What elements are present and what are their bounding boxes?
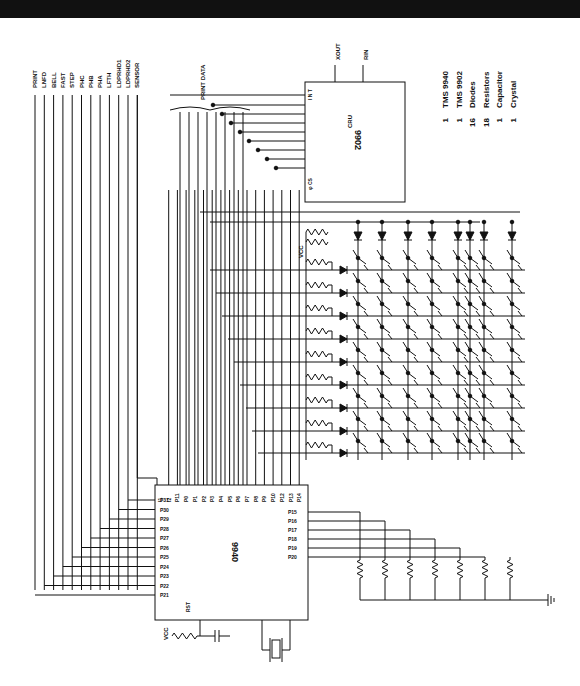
junction-dot [380,439,384,443]
pin-label: P18 [288,536,297,542]
junction-dot [430,394,434,398]
pin-label-p9: P9 [261,496,267,502]
key-switch [388,448,392,453]
part-qty: 1 [509,117,518,122]
junction-dot [380,348,384,352]
junction-dot [482,302,486,306]
junction-dot [356,417,360,421]
junction-dot [356,394,360,398]
key-switch [490,403,494,408]
junction-dot [482,371,486,375]
junction-dot [510,302,514,306]
diode-icon [340,449,347,457]
resistor [482,560,488,578]
key-switch [518,448,522,453]
pin-label-p8: P8 [253,496,259,502]
part-qty: 1 [441,117,450,122]
crystal-icon [272,640,280,658]
resistor [407,560,413,578]
key-switch [464,334,468,339]
key-switch [388,265,392,270]
junction-dot [482,256,486,260]
junction-dot [430,325,434,329]
junction-dot [430,348,434,352]
chip-9940-label: 9940 [230,542,240,562]
junction-dot [380,279,384,283]
key-switch [388,403,392,408]
key-switch [364,380,368,385]
diode-icon [340,404,347,412]
key-switch [490,448,494,453]
key-switch [464,265,468,270]
key-switch [438,265,442,270]
resistor [306,374,328,380]
pin-label: P15 [288,509,297,515]
pin-label-p6: P6 [235,496,241,502]
resistor [306,397,328,403]
key-switch [518,265,522,270]
key-switch [438,311,442,316]
key-switch [364,334,368,339]
key-switch [438,288,442,293]
key-switch [364,311,368,316]
diode-icon [340,266,347,274]
rst-label: RST [185,602,191,612]
resistor [172,633,197,639]
junction-dot [356,256,360,260]
key-switch [414,357,418,362]
junction-dot [510,325,514,329]
key-switch [464,357,468,362]
junction-dot [456,439,460,443]
bus-brace [170,107,250,110]
signal-label-phb: PHB [88,75,94,88]
diode-icon [340,312,347,320]
key-switch [364,288,368,293]
key-switch [414,311,418,316]
key-switch [414,288,418,293]
junction-dot [380,417,384,421]
junction-dot [456,325,460,329]
part-name: Diodes [468,81,477,108]
part-qty: 16 [468,117,477,126]
signal-label-step: STEP [69,72,75,88]
junction-dot [356,348,360,352]
signal-label-pha: PHA [97,75,103,88]
pin-label: P20 [288,554,297,560]
diode-icon [340,381,347,389]
junction-dot [406,325,410,329]
key-switch [388,380,392,385]
int-label: I N T [307,89,313,100]
wire [262,620,270,650]
pin-label-p3: P3 [209,496,215,502]
key-switch [490,334,494,339]
junction-dot [468,325,472,329]
part-qty: 1 [495,117,504,122]
junction-dot [380,256,384,260]
junction-dot [406,348,410,352]
part-name: Capacitor [495,71,504,108]
pin-label: P22 [160,583,169,589]
key-switch [490,288,494,293]
key-switch [518,311,522,316]
pin-label: P16 [288,518,297,524]
key-switch [414,448,418,453]
junction-dot [510,220,514,224]
key-switch [438,448,442,453]
pin-label: P21 [160,592,169,598]
key-switch [476,334,480,339]
junction-dot [456,394,460,398]
pin-label: P27 [160,535,169,541]
key-switch [490,265,494,270]
key-switch [476,357,480,362]
key-switch [438,403,442,408]
part-name: TMS 9940 [441,71,450,108]
signal-label-lnfd: LNFD [41,71,47,88]
key-switch [414,380,418,385]
key-switch [364,403,368,408]
junction-dot [220,112,224,116]
wire [137,95,157,485]
key-switch [464,448,468,453]
junction-dot [482,439,486,443]
resistor [306,229,328,235]
junction-dot [380,302,384,306]
